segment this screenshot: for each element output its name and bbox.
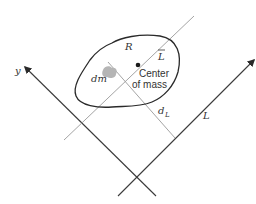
label-d-l: d L <box>158 105 170 119</box>
diagram-canvas: R dm Center of mass L d L L y <box>0 0 256 204</box>
svg-text:L: L <box>157 51 165 62</box>
label-region-r: R <box>124 41 133 52</box>
label-l-axis: L <box>202 110 210 121</box>
label-center: Center <box>139 68 170 79</box>
label-y-axis: y <box>14 65 21 76</box>
label-l-bar: L <box>157 50 165 62</box>
label-of-mass: of mass <box>132 79 167 90</box>
center-of-mass-dot <box>136 63 141 68</box>
svg-text:L: L <box>164 111 170 119</box>
svg-text:d: d <box>158 105 164 116</box>
l-bar-axis-line <box>64 16 194 140</box>
label-dm: dm <box>91 73 107 84</box>
